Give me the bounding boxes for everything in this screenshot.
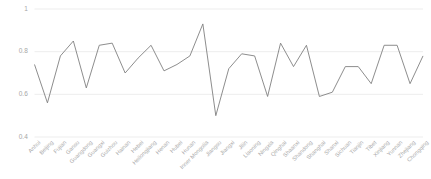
y-tick-label: 1 xyxy=(12,6,28,13)
line-chart: 0.40.60.81 AnhuiBeijingFujianGansuGuangd… xyxy=(0,0,431,179)
data-series-line xyxy=(35,24,424,116)
y-tick-label: 0.4 xyxy=(12,134,28,141)
gridlines xyxy=(35,9,424,137)
y-tick-label: 0.8 xyxy=(12,48,28,55)
y-tick-label: 0.6 xyxy=(12,91,28,98)
chart-plot-area xyxy=(0,0,431,179)
